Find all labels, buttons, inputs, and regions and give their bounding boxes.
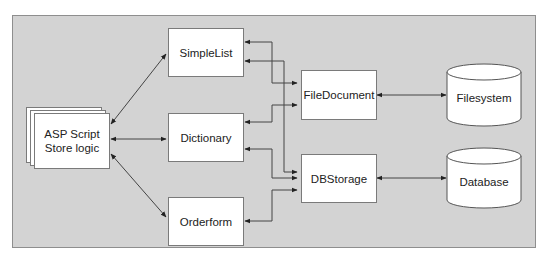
asp-script-node[interactable]: ASP Script Store logic [34,113,110,169]
dictionary-label: Dictionary [180,131,231,145]
edge-simplelist-dbstorage [245,61,297,172]
edge-dictionary-dbstorage [245,149,297,178]
filedocument-node[interactable]: FileDocument [301,70,377,120]
database-label: Database [447,176,521,188]
dbstorage-label: DBStorage [311,172,367,186]
filedocument-label: FileDocument [304,88,375,102]
edge-asp-simplelist [111,54,166,124]
asp-label-line2: Store logic [45,141,99,155]
edge-simplelist-filedocument [245,42,297,83]
asp-label-line1: ASP Script [44,127,99,141]
simplelist-node[interactable]: SimpleList [168,28,244,77]
dictionary-node[interactable]: Dictionary [168,113,244,162]
orderform-label: Orderform [180,215,232,229]
orderform-node[interactable]: Orderform [168,197,244,246]
edge-orderform-dbstorage [245,190,297,221]
dbstorage-node[interactable]: DBStorage [301,154,377,203]
edge-dictionary-filedocument [245,105,297,122]
filesystem-label: Filesystem [447,92,521,104]
edge-asp-orderform [111,154,166,217]
simplelist-label: SimpleList [179,46,232,60]
